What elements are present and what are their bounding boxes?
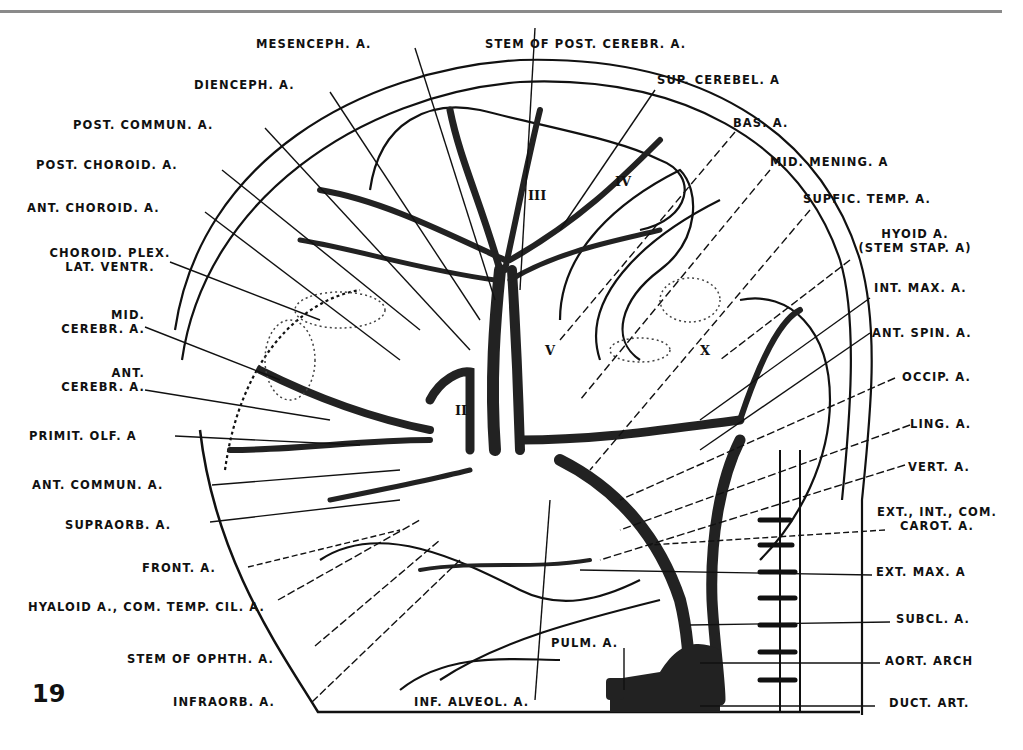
- label-choroid-plex-line2: LAT. VENTR.: [30, 260, 190, 274]
- label-infraorb: INFRAORB. A.: [173, 695, 275, 709]
- label-duct-art: DUCT. ART.: [889, 696, 970, 710]
- label-int-max: INT. MAX. A.: [874, 281, 967, 295]
- label-sup-cerebel: SUP. CEREBEL. A: [657, 73, 780, 87]
- label-ant-choroid: ANT. CHOROID. A.: [27, 201, 160, 215]
- label-ant-cerebr-line2: CEREBR. A.: [30, 380, 145, 394]
- label-bas: BAS. A.: [733, 116, 789, 130]
- label-occip: OCCIP. A.: [902, 370, 971, 384]
- arterial-tree: [230, 110, 800, 700]
- label-mesenceph: MESENCEPH. A.: [256, 37, 372, 51]
- marker-ii: II: [455, 403, 467, 418]
- aortic-arch-mass: [606, 644, 720, 712]
- label-ant-cerebr: ANT. CEREBR. A.: [30, 366, 145, 394]
- label-supraorb: SUPRAORB. A.: [65, 518, 171, 532]
- marker-x: X: [700, 343, 711, 358]
- label-ext-int-com-line2: CAROT. A.: [862, 519, 1012, 533]
- label-post-choroid: POST. CHOROID. A.: [36, 158, 178, 172]
- label-stem-post-cerebr: STEM OF POST. CEREBR. A.: [485, 37, 686, 51]
- label-mid-cerebr: MID. CEREBR. A.: [30, 308, 145, 336]
- label-ant-cerebr-line1: ANT.: [30, 366, 145, 380]
- label-mid-mening: MID. MENING. A: [770, 155, 889, 169]
- head-outline: [175, 60, 872, 715]
- label-pulm: PULM. A.: [551, 636, 618, 650]
- label-stem-ophth: STEM OF OPHTH. A.: [127, 652, 274, 666]
- label-suppic-temp: SUPFIC. TEMP. A.: [803, 192, 931, 206]
- label-mid-cerebr-line2: CEREBR. A.: [30, 322, 145, 336]
- label-hyoid-line1: HYOID A.: [840, 227, 990, 241]
- marker-iv: IV: [615, 174, 632, 189]
- marker-iii: III: [528, 188, 546, 203]
- marker-v: V: [544, 343, 556, 358]
- figure-number: 19: [32, 680, 65, 708]
- vertebrae: [760, 520, 795, 680]
- label-dienceph: DIENCEPH. A.: [194, 78, 295, 92]
- label-choroid-plex-line1: CHOROID. PLEX.: [30, 246, 190, 260]
- label-subcl: SUBCL. A.: [896, 612, 970, 626]
- label-ext-max: EXT. MAX. A: [876, 565, 966, 579]
- label-post-commun: POST. COMMUN. A.: [73, 118, 213, 132]
- label-ant-spin: ANT. SPIN. A.: [872, 326, 972, 340]
- label-aort-arch: AORT. ARCH: [885, 654, 973, 668]
- label-ext-int-com: EXT., INT., COM. CAROT. A.: [862, 505, 1012, 533]
- label-primit-olf: PRIMIT. OLF. A: [29, 429, 137, 443]
- label-ext-int-com-line1: EXT., INT., COM.: [862, 505, 1012, 519]
- label-front: FRONT. A.: [142, 561, 216, 575]
- label-inf-alveol: INF. ALVEOL. A.: [414, 695, 529, 709]
- label-mid-cerebr-line1: MID.: [30, 308, 145, 322]
- label-hyoid-line2: (STEM STAP. A): [840, 241, 990, 255]
- label-ant-commun: ANT. COMMUN. A.: [32, 478, 163, 492]
- label-vert: VERT. A.: [908, 460, 970, 474]
- label-choroid-plex: CHOROID. PLEX. LAT. VENTR.: [30, 246, 190, 274]
- label-hyaloid: HYALOID A., COM. TEMP. CIL. A.: [28, 600, 265, 614]
- artery-diagram: III IV V II X: [0, 0, 1023, 750]
- label-ling: LING. A.: [910, 417, 971, 431]
- label-hyoid: HYOID A. (STEM STAP. A): [840, 227, 990, 255]
